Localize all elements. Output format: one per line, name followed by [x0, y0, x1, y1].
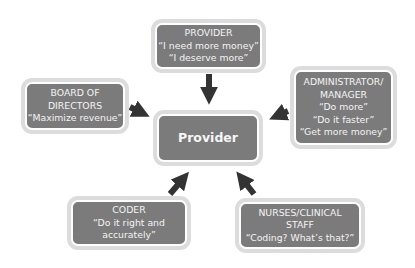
node-board-title-1: BOARD OF [51, 87, 100, 100]
node-admin-quote-1: “Do more” [319, 101, 368, 114]
node-coder-quote-1: “Do it right and [93, 217, 165, 230]
node-board-title-2: DIRECTORS [48, 100, 102, 113]
center-provider-label: Provider [178, 132, 238, 145]
node-admin-quote-3: “Get more money” [300, 126, 388, 139]
node-coder-title: CODER [112, 204, 145, 217]
node-coder: CODER “Do it right and accurately” [71, 200, 187, 246]
node-administrator-manager: ADMINISTRATOR/ MANAGER “Do more” “Do it … [294, 70, 393, 145]
node-board-of-directors: BOARD OF DIRECTORS “Maximize revenue” [25, 82, 125, 130]
arrow-coder-to-center [170, 180, 182, 194]
node-nurses-title-1: NURSES/CLINICAL [258, 207, 341, 220]
node-nurses-title-2: STAFF [286, 219, 314, 232]
node-center-provider: Provider [157, 114, 259, 162]
node-provider: PROVIDER “I need more money” “I deserve … [155, 23, 262, 69]
node-admin-quote-2: “Do it faster” [313, 114, 375, 127]
node-provider-quote-1: “I need more money” [158, 40, 258, 53]
node-nurses-clinical-staff: NURSES/CLINICAL STAFF “Coding? What’s th… [239, 202, 361, 249]
arrow-admin-to-center [279, 111, 288, 115]
node-nurses-quote: “Coding? What’s that?” [246, 232, 355, 245]
node-admin-title-1: ADMINISTRATOR/ [304, 76, 384, 89]
node-board-quote: “Maximize revenue” [28, 112, 123, 125]
node-coder-quote-2: accurately” [102, 229, 156, 242]
node-provider-title: PROVIDER [185, 27, 233, 40]
node-admin-title-2: MANAGER [320, 89, 367, 102]
arrow-board-to-center [130, 107, 140, 112]
arrow-nurses-to-center [243, 180, 254, 194]
node-provider-quote-2: “I deserve more” [169, 52, 249, 65]
